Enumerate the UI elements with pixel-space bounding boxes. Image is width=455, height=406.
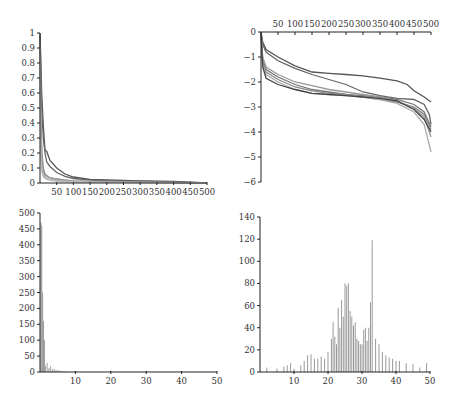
series-line-s5 <box>40 56 207 184</box>
y-tick-label: 0.2 <box>21 148 35 158</box>
y-tick-label: 0 <box>250 367 255 377</box>
chart-grid: 00.10.20.30.40.50.60.70.80.9150100150200… <box>0 0 455 406</box>
y-tick-label: 0 <box>30 178 35 188</box>
y-tick-label: 0 <box>251 27 256 37</box>
x-tick-label: 400 <box>165 187 181 197</box>
y-tick-label: 0.8 <box>21 58 35 68</box>
x-tick-label: 350 <box>372 19 388 29</box>
x-tick-label: 10 <box>289 376 300 386</box>
x-tick-label: 300 <box>355 19 371 29</box>
y-tick-label: 500 <box>19 208 35 218</box>
y-tick-label: 50 <box>24 351 35 361</box>
series-line-s1 <box>40 33 207 183</box>
y-tick-label: −2 <box>243 77 256 87</box>
series-group <box>40 33 207 183</box>
y-tick-label: 0.4 <box>21 118 35 128</box>
x-tick-label: 50 <box>273 19 284 29</box>
y-tick-label: 0.6 <box>21 88 35 98</box>
y-tick-label: −1 <box>243 52 256 62</box>
x-tick-label: 450 <box>406 19 422 29</box>
chart-top-left: 00.10.20.30.40.50.60.70.80.9150100150200… <box>21 28 215 197</box>
x-tick-label: 200 <box>321 19 337 29</box>
y-tick-label: 40 <box>244 323 255 333</box>
y-tick-label: 0.7 <box>21 73 35 83</box>
x-tick-label: 50 <box>212 376 223 386</box>
y-tick-label: 400 <box>19 240 35 250</box>
x-tick-label: 20 <box>323 376 334 386</box>
y-tick-label: 150 <box>19 319 35 329</box>
series-group <box>261 32 431 152</box>
series-line-s3 <box>261 32 431 127</box>
x-tick-label: 300 <box>132 187 148 197</box>
y-tick-label: 60 <box>244 301 255 311</box>
y-tick-label: 140 <box>239 212 255 222</box>
x-tick-label: 250 <box>338 19 354 29</box>
y-tick-label: −5 <box>243 152 256 162</box>
y-tick-label: 100 <box>19 335 35 345</box>
y-tick-label: 0.5 <box>21 103 35 113</box>
x-tick-label: 450 <box>182 187 198 197</box>
x-tick-label: 250 <box>115 187 131 197</box>
chart-bottom-right: 0204060801001201401020304050 <box>239 212 436 386</box>
y-tick-label: 300 <box>19 272 35 282</box>
y-tick-label: −4 <box>243 127 256 137</box>
x-tick-label: 10 <box>70 376 81 386</box>
x-tick-label: 500 <box>423 19 439 29</box>
x-tick-label: 40 <box>391 376 402 386</box>
y-tick-label: −3 <box>243 102 256 112</box>
chart-bottom-left: 0501001502002503003504004505001020304050 <box>19 208 223 386</box>
x-tick-label: 150 <box>304 19 320 29</box>
bars-group <box>267 240 427 372</box>
y-tick-label: 1 <box>30 28 35 38</box>
x-tick-label: 150 <box>82 187 98 197</box>
y-tick-label: 350 <box>19 256 35 266</box>
x-tick-label: 350 <box>149 187 165 197</box>
series-line-s7 <box>261 32 431 132</box>
series-line-s2 <box>40 36 207 183</box>
x-tick-label: 40 <box>176 376 187 386</box>
x-tick-label: 30 <box>141 376 152 386</box>
y-tick-label: −6 <box>243 177 256 187</box>
x-tick-label: 50 <box>51 187 62 197</box>
x-tick-label: 400 <box>389 19 405 29</box>
series-line-s3 <box>40 41 207 184</box>
y-tick-label: 0 <box>30 367 35 377</box>
series-line-s6 <box>40 63 207 183</box>
x-tick-label: 500 <box>199 187 215 197</box>
y-tick-label: 0.9 <box>21 43 35 53</box>
y-tick-label: 80 <box>244 278 255 288</box>
y-tick-label: 0.3 <box>21 133 35 143</box>
y-tick-label: 20 <box>244 345 255 355</box>
x-tick-label: 50 <box>425 376 436 386</box>
x-tick-label: 30 <box>357 376 368 386</box>
chart-top-right: 0−1−2−3−4−5−6501001502002503003504004505… <box>243 19 439 187</box>
y-tick-label: 100 <box>239 256 255 266</box>
y-tick-label: 120 <box>239 234 255 244</box>
x-tick-label: 100 <box>65 187 81 197</box>
y-tick-label: 450 <box>19 224 35 234</box>
x-tick-label: 20 <box>105 376 116 386</box>
bars-group <box>41 223 68 372</box>
x-tick-label: 200 <box>99 187 115 197</box>
y-tick-label: 250 <box>19 288 35 298</box>
y-tick-label: 200 <box>19 303 35 313</box>
x-tick-label: 100 <box>287 19 303 29</box>
series-line-s4 <box>40 48 207 183</box>
y-tick-label: 0.1 <box>21 163 35 173</box>
